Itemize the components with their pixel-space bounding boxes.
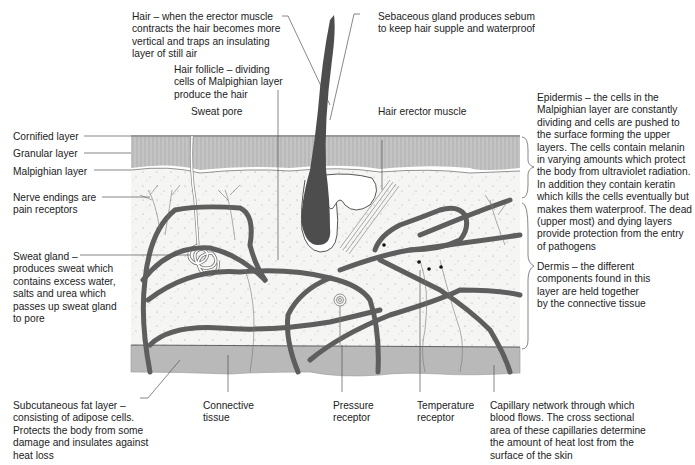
sweat-gland-label: Sweat gland – produces sweat which conta… — [13, 251, 117, 325]
subcutaneous-fat-label: Subcutaneous fat layer – consisting of a… — [13, 400, 148, 462]
sebaceous-gland-label: Sebaceous gland produces sebum to keep h… — [378, 11, 535, 36]
hair-label: Hair – when the erector muscle contracts… — [132, 11, 280, 61]
sweat-pore-label: Sweat pore — [191, 106, 243, 118]
cornified-layer-label: Cornified layer — [13, 131, 79, 143]
pressure-receptor-label: Pressure receptor — [333, 400, 374, 425]
hair-erector-muscle-label: Hair erector muscle — [378, 106, 466, 118]
epidermis-label: Epidermis – the cells in the Malpighian … — [537, 92, 692, 253]
dermis-label: Dermis – the different components found … — [537, 261, 650, 311]
granular-layer-label: Granular layer — [13, 148, 78, 160]
hair-follicle-label: Hair follicle – dividing cells of Malpig… — [174, 64, 283, 101]
temperature-receptor-label: Temperature receptor — [417, 400, 474, 425]
sebaceous-gland — [325, 174, 377, 210]
connective-tissue-label: Connective tissue — [203, 400, 254, 425]
capillary-network-label: Capillary network through which blood fl… — [490, 400, 646, 462]
nerve-endings-label: Nerve endings are pain receptors — [13, 192, 96, 217]
malpighian-layer-label: Malpighian layer — [13, 166, 87, 178]
